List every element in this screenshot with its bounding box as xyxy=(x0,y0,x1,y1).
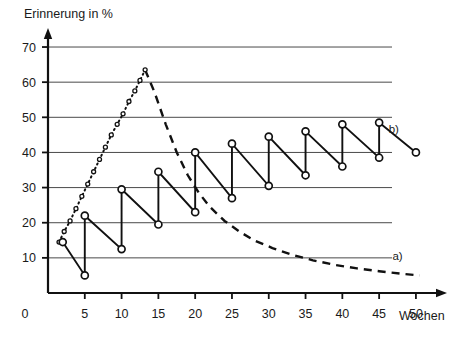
y-tick-label-70: 70 xyxy=(22,41,36,55)
data-point-b-17 xyxy=(376,154,383,161)
x-tick-label-35: 35 xyxy=(299,307,313,321)
series-line-b xyxy=(63,123,416,276)
data-point-a-12 xyxy=(127,99,131,103)
gridlines-group xyxy=(48,47,392,258)
data-point-b-18 xyxy=(376,119,383,126)
x-tick-label-40: 40 xyxy=(335,307,349,321)
data-point-a-4 xyxy=(80,194,84,198)
data-point-b-7 xyxy=(192,209,199,216)
markers-group xyxy=(57,68,419,279)
y-tick-label-10: 10 xyxy=(22,251,36,265)
data-point-b-6 xyxy=(155,168,162,175)
series-annotation-b: b) xyxy=(389,123,399,135)
data-point-b-19 xyxy=(412,149,419,156)
data-point-b-1 xyxy=(81,272,88,279)
data-point-b-0 xyxy=(59,239,66,246)
series-line-a-rising xyxy=(59,70,145,242)
data-point-a-5 xyxy=(86,182,90,186)
series-annotation-a: a) xyxy=(392,250,402,262)
x-tick-label-0: 0 xyxy=(22,307,29,321)
tickmarks-group xyxy=(42,47,416,299)
x-tick-label-45: 45 xyxy=(372,307,386,321)
x-tick-label-30: 30 xyxy=(262,307,276,321)
data-point-b-11 xyxy=(265,182,272,189)
data-point-a-10 xyxy=(115,122,119,126)
data-point-b-14 xyxy=(302,128,309,135)
data-point-b-12 xyxy=(265,133,272,140)
x-tick-label-10: 10 xyxy=(115,307,129,321)
data-point-b-4 xyxy=(118,186,125,193)
y-axis-title: Erinnerung in % xyxy=(24,7,113,21)
data-point-b-15 xyxy=(339,163,346,170)
data-point-b-13 xyxy=(302,172,309,179)
data-point-a-11 xyxy=(121,112,125,116)
series-line-a-decay xyxy=(145,70,419,276)
data-point-a-15 xyxy=(143,68,147,72)
y-tick-label-40: 40 xyxy=(22,146,36,160)
data-point-b-5 xyxy=(155,221,162,228)
data-point-a-8 xyxy=(103,145,107,149)
data-point-a-2 xyxy=(68,219,72,223)
chart-svg: 1020304050607005101520253035404550a)b) E… xyxy=(0,0,454,338)
data-point-a-13 xyxy=(133,89,137,93)
axes-group xyxy=(44,28,447,297)
data-point-b-16 xyxy=(339,121,346,128)
data-point-a-3 xyxy=(74,207,78,211)
data-point-b-8 xyxy=(192,149,199,156)
x-tick-label-5: 5 xyxy=(81,307,88,321)
data-point-a-6 xyxy=(92,170,96,174)
data-point-b-10 xyxy=(228,140,235,147)
y-tick-label-30: 30 xyxy=(22,181,36,195)
data-point-b-9 xyxy=(228,195,235,202)
data-point-a-14 xyxy=(138,78,142,82)
x-tick-label-25: 25 xyxy=(225,307,239,321)
data-point-b-3 xyxy=(118,246,125,253)
x-axis-arrow-icon xyxy=(436,289,447,297)
x-tick-label-20: 20 xyxy=(188,307,202,321)
y-tick-label-60: 60 xyxy=(22,76,36,90)
data-point-b-2 xyxy=(81,212,88,219)
memory-retention-chart: 1020304050607005101520253035404550a)b) E… xyxy=(0,0,454,338)
y-tick-label-50: 50 xyxy=(22,111,36,125)
data-point-a-7 xyxy=(98,157,102,161)
y-axis-arrow-icon xyxy=(44,28,52,39)
data-point-a-1 xyxy=(62,230,66,234)
x-tick-label-15: 15 xyxy=(151,307,165,321)
y-tick-label-20: 20 xyxy=(22,216,36,230)
data-point-a-9 xyxy=(109,133,113,137)
series-group xyxy=(59,70,420,276)
x-axis-title: Wochen xyxy=(399,309,445,323)
